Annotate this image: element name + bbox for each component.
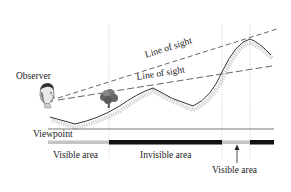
line-of-sight-upper xyxy=(58,29,277,98)
viewshed-diagram: Observer Line of sight Line of sight Vie… xyxy=(0,0,291,192)
observer-label: Observer xyxy=(16,72,51,82)
visible-area-label-2: Visible area xyxy=(212,166,257,176)
band-visible-2 xyxy=(222,141,250,145)
visibility-band xyxy=(48,140,274,145)
tree-icon xyxy=(100,89,118,108)
band-visible-1 xyxy=(48,141,109,145)
face-icon xyxy=(40,83,55,108)
terrain-shading xyxy=(52,43,272,128)
band-invisible-2 xyxy=(250,140,274,145)
band-invisible-1 xyxy=(109,140,222,145)
visible-area-label-1: Visible area xyxy=(53,151,98,161)
diagram-canvas xyxy=(0,0,291,192)
arrow-up-icon xyxy=(235,145,240,164)
viewpoint-label: Viewpoint xyxy=(33,130,73,140)
invisible-area-label: Invisible area xyxy=(140,151,191,161)
